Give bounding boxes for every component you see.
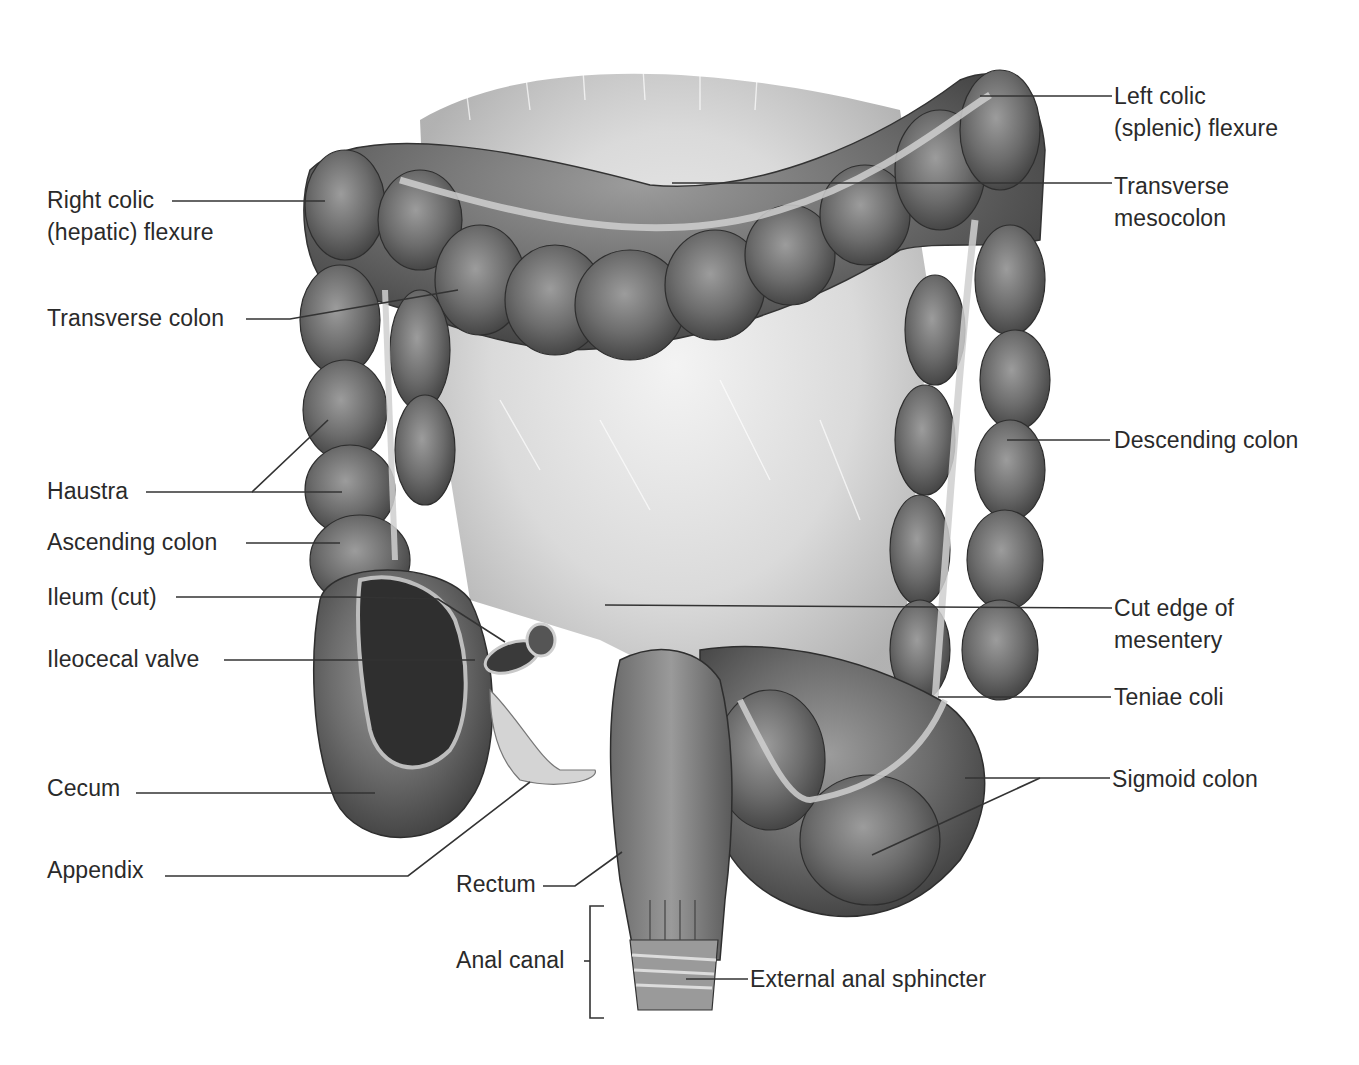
label-sigmoid-colon: Sigmoid colon xyxy=(1112,763,1258,795)
label-ascending-colon: Ascending colon xyxy=(47,526,217,558)
descending-colon-shape xyxy=(890,220,1050,700)
leader-anal-canal-bracket xyxy=(590,906,604,1018)
leader-haustra-a xyxy=(146,420,328,492)
label-descending-colon: Descending colon xyxy=(1114,424,1298,456)
label-haustra: Haustra xyxy=(47,475,128,507)
label-anal-canal: Anal canal xyxy=(456,944,564,976)
label-transverse-mesocolon: Transverse mesocolon xyxy=(1114,170,1229,234)
label-ileocecal-valve: Ileocecal valve xyxy=(47,643,199,675)
leader-rectum xyxy=(543,852,622,886)
label-ileum-cut: Ileum (cut) xyxy=(47,581,157,613)
label-rectum: Rectum xyxy=(456,868,536,900)
label-teniae-coli: Teniae coli xyxy=(1114,681,1224,713)
label-external-anal-sphincter: External anal sphincter xyxy=(750,963,986,995)
label-cecum: Cecum xyxy=(47,772,120,804)
sigmoid-colon-shape xyxy=(700,647,985,917)
mesentery-sheet xyxy=(420,20,930,720)
ascending-colon-shape xyxy=(300,265,455,605)
label-right-colic-flexure: Right colic (hepatic) flexure xyxy=(47,184,214,248)
label-cut-edge-of-mesentery: Cut edge of mesentery xyxy=(1114,592,1234,656)
rectum-shape xyxy=(611,650,732,1010)
label-appendix: Appendix xyxy=(47,854,144,886)
label-transverse-colon: Transverse colon xyxy=(47,302,224,334)
label-left-colic-flexure: Left colic (splenic) flexure xyxy=(1114,80,1278,144)
